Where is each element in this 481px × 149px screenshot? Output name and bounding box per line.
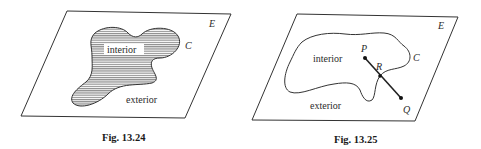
plane-label-E: E	[437, 20, 444, 31]
curve-label-C: C	[413, 52, 420, 63]
point-R	[378, 74, 382, 78]
point-label-P: P	[360, 43, 367, 54]
interior-label: interior	[107, 44, 137, 55]
point-Q	[399, 96, 403, 100]
segment-PQ	[365, 58, 401, 98]
exterior-label: exterior	[126, 94, 158, 105]
figure-canvas: interior exterior C E Fig. 13.24 P R Q C…	[0, 0, 481, 149]
figure-13-25: P R Q C E interior exterior Fig. 13.25	[252, 14, 458, 145]
figure-13-24: interior exterior C E Fig. 13.24	[21, 11, 231, 143]
curve-label-C: C	[185, 40, 192, 51]
plane-label-E: E	[208, 18, 215, 29]
point-label-Q: Q	[403, 104, 411, 115]
caption-fig-13-25: Fig. 13.25	[334, 134, 377, 145]
interior-label: interior	[313, 53, 343, 64]
plane-E	[252, 14, 458, 121]
point-label-R: R	[375, 61, 382, 72]
closed-curve-C	[285, 33, 410, 101]
exterior-label: exterior	[310, 100, 342, 111]
point-P	[363, 56, 367, 60]
caption-fig-13-24: Fig. 13.24	[102, 132, 146, 143]
